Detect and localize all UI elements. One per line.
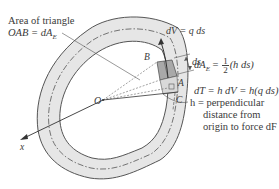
h-definition-line2: distance from: [203, 109, 260, 120]
x-axis-label: x: [20, 142, 24, 153]
area-triangle-label-line1: Area of triangle: [8, 15, 74, 26]
origin-O-label: O: [94, 95, 101, 106]
dV-label: dV = q ds: [166, 25, 205, 36]
point-B-label: B: [144, 52, 150, 63]
area-triangle-label-line2: OAB = dAE: [8, 27, 57, 43]
h-definition-line3: origin to force dF: [203, 121, 277, 132]
dAE-equation: dAE = 12(h ds): [194, 57, 254, 75]
point-C-label: C: [176, 95, 182, 106]
h-definition-line1: h = perpendicular: [190, 97, 264, 108]
dT-equation: dT = h dV = h(q ds): [194, 85, 278, 96]
origin-point: [102, 99, 104, 101]
point-A-label: A: [178, 78, 184, 89]
